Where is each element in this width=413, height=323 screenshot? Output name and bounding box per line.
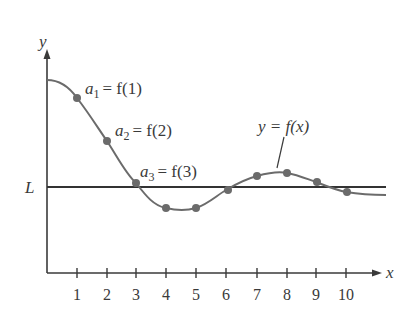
x-tick-label: 9 xyxy=(312,286,320,303)
point-a6 xyxy=(224,186,232,194)
point-a8 xyxy=(283,169,291,177)
x-tick-labels: 1 2 3 4 5 6 7 8 9 10 xyxy=(73,286,354,303)
x-tick-label: 2 xyxy=(103,286,111,303)
x-tick-label: 7 xyxy=(253,286,261,303)
point-a3 xyxy=(132,179,140,187)
point-a2 xyxy=(103,137,111,145)
x-axis-label: x xyxy=(385,263,394,282)
point-a7 xyxy=(253,172,261,180)
x-tick-label: 3 xyxy=(132,286,140,303)
point-a10 xyxy=(343,188,351,196)
y-axis-label: y xyxy=(37,32,47,51)
limit-label: L xyxy=(24,178,34,197)
point-a4 xyxy=(162,204,170,212)
point-a9 xyxy=(313,178,321,186)
sequence-limit-figure: y x 1 2 3 4 5 6 7 8 9 10 L xyxy=(0,0,413,323)
x-axis-arrow-icon xyxy=(372,270,382,277)
curve-label: y = f(x) xyxy=(256,117,309,136)
point-a1 xyxy=(73,94,81,102)
annotation-a1: a1= f(1) xyxy=(85,79,142,101)
annotation-a3: a3= f(3) xyxy=(140,162,197,184)
x-tick-label: 5 xyxy=(192,286,200,303)
curve-label-leader xyxy=(277,137,284,168)
annotation-a2: a2= f(2) xyxy=(115,121,172,143)
x-tick-label: 8 xyxy=(283,286,291,303)
x-tick-label: 1 xyxy=(73,286,81,303)
x-tick-label: 10 xyxy=(338,286,354,303)
x-tick-label: 4 xyxy=(162,286,170,303)
point-a5 xyxy=(192,204,200,212)
x-tick-label: 6 xyxy=(222,286,230,303)
